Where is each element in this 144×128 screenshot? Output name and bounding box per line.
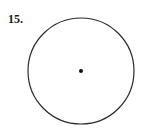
problem-figure: 15. [0,0,144,128]
center-point [79,69,83,73]
circle-diagram [0,0,144,128]
